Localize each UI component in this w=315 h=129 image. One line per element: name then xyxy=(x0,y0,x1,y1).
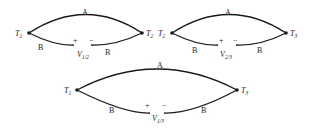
junction-dot xyxy=(75,88,79,92)
wire-label-b: B xyxy=(105,48,110,57)
junction-dot xyxy=(235,88,239,92)
minus-sign: − xyxy=(162,101,167,110)
junction-dot xyxy=(284,31,288,35)
wire-label-a: A xyxy=(157,61,163,70)
wire-b-right xyxy=(236,33,286,45)
wire-a xyxy=(29,15,142,34)
wire-a xyxy=(172,15,286,34)
thermocouple-diagrams: A B B + − T1 T2 V1/2 A B B + − T2 T3 V2/… xyxy=(0,0,315,129)
node-label: T1 xyxy=(15,29,22,39)
plus-sign: + xyxy=(145,101,150,110)
diagram-t2-t3: A B B + − T2 T3 V2/3 xyxy=(158,8,297,60)
junction-dot xyxy=(27,31,31,35)
wire-b-right xyxy=(91,33,142,45)
junction-dot xyxy=(170,31,174,35)
wire-b-left xyxy=(29,33,74,45)
plus-sign: + xyxy=(219,36,224,45)
node-label: T2 xyxy=(158,29,165,39)
node-label: T3 xyxy=(241,86,248,96)
wire-label-b: B xyxy=(38,43,43,52)
wire-label-b: B xyxy=(192,46,197,55)
plus-sign: + xyxy=(73,36,78,45)
node-label: T3 xyxy=(290,29,297,39)
node-label: T2 xyxy=(146,29,153,39)
voltage-label: V1/3 xyxy=(152,114,164,124)
diagram-svg: A B B + − T1 T2 V1/2 A B B + − T2 T3 V2/… xyxy=(0,0,315,129)
junction-dot xyxy=(140,31,144,35)
wire-b-left xyxy=(172,33,218,45)
voltage-label: V2/3 xyxy=(220,50,232,60)
wire-label-a: A xyxy=(82,8,88,17)
diagram-t1-t3: A B B + − T1 T3 V1/3 xyxy=(64,61,248,124)
minus-sign: − xyxy=(233,36,238,45)
minus-sign: − xyxy=(89,36,94,45)
wire-label-b: B xyxy=(257,46,262,55)
wire-label-b: B xyxy=(109,106,114,115)
voltage-label: V1/2 xyxy=(77,50,89,60)
wire-a xyxy=(77,69,237,90)
wire-label-b: B xyxy=(201,106,206,115)
diagram-t1-t2: A B B + − T1 T2 V1/2 xyxy=(15,8,153,60)
node-label: T1 xyxy=(64,86,71,96)
wire-label-a: A xyxy=(225,8,231,17)
